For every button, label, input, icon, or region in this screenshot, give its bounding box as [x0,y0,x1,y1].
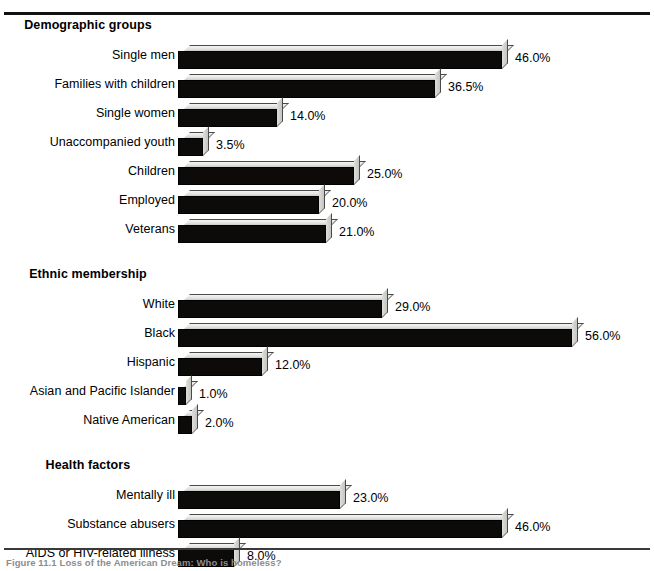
bar-top-face [184,485,352,491]
bar-3d [178,514,502,538]
bar-front-face [178,491,340,509]
bar-row: Children25.0% [0,158,654,187]
bar-3d [178,74,435,98]
bar-value-label: 2.0% [205,416,234,430]
bar-3d [178,410,192,434]
figure-caption: Figure 11.1 Loss of the American Dream: … [6,557,646,568]
bar-top-face [184,161,366,167]
bar-3d [178,45,502,69]
bar-row: Employed20.0% [0,187,654,216]
bar-category-label: Substance abusers [67,517,175,531]
bar-front-face [178,196,319,214]
bar-value-label: 20.0% [332,196,367,210]
bar-top-face [184,190,331,196]
bar-value-label: 12.0% [275,358,310,372]
bar-front-face [178,358,262,376]
bar-row: Single women14.0% [0,100,654,129]
bar-side-face [262,346,268,376]
bar-top-face [184,219,338,225]
bar-top-face [184,45,514,51]
bar-row: Black56.0% [0,320,654,349]
bar-category-label: Children [128,164,175,178]
bar-3d [178,294,382,318]
bar-value-label: 36.5% [448,80,483,94]
bar-value-label: 23.0% [353,491,388,505]
figure-top-rule [4,12,650,15]
bar-category-label: Families with children [54,77,175,91]
bar-row: Substance abusers46.0% [0,511,654,540]
bar-side-face [319,184,325,214]
bar-group-title: Ethnic membership [0,267,176,281]
bar-front-face [178,225,326,243]
bar-3d [178,190,319,214]
bar-row: Single men46.0% [0,42,654,71]
bar-category-label: Unaccompanied youth [50,135,175,149]
bar-category-label: Asian and Pacific Islander [30,384,175,398]
bar-front-face [178,109,277,127]
bar-side-face [340,479,346,509]
bar-value-label: 46.0% [515,520,550,534]
bar-category-label: Mentally ill [116,488,175,502]
bar-value-label: 25.0% [367,167,402,181]
bar-row: Mentally ill23.0% [0,482,654,511]
bar-side-face [382,288,388,318]
bar-top-face [184,74,447,80]
bar-value-label: 29.0% [395,300,430,314]
bar-group: Ethnic membershipWhite29.0%Black56.0%His… [0,267,654,436]
bar-category-label: Native American [83,413,175,427]
bar-top-face [184,352,274,358]
bar-side-face [502,39,508,69]
bar-side-face [277,97,283,127]
bar-row: Veterans21.0% [0,216,654,245]
bar-value-label: 56.0% [585,329,620,343]
bar-3d [178,103,277,127]
bar-category-label: White [143,297,175,311]
figure-container: Demographic groupsSingle men46.0%Familie… [0,0,654,571]
bar-front-face [178,387,186,405]
bar-top-face [184,323,584,329]
bar-3d [178,161,354,185]
bar-row: Hispanic12.0% [0,349,654,378]
bar-top-face [184,514,514,520]
figure-bottom-rule [4,548,650,550]
bar-category-label: Employed [119,193,175,207]
bar-category-label: Single women [96,106,175,120]
bar-3d [178,381,186,405]
bar-side-face [435,68,441,98]
bar-3d [178,352,262,376]
bar-3d [178,323,572,347]
bar-3d [178,219,326,243]
bar-row: Unaccompanied youth3.5% [0,129,654,158]
bar-side-face [354,155,360,185]
bar-category-label: Black [144,326,175,340]
bar-front-face [178,167,354,185]
bar-category-label: Single men [112,48,175,62]
bar-value-label: 21.0% [339,225,374,239]
bar-row: Families with children36.5% [0,71,654,100]
bar-group-title: Demographic groups [0,18,176,32]
bar-row: Asian and Pacific Islander1.0% [0,378,654,407]
bar-front-face [178,300,382,318]
grouped-bar-chart: Demographic groupsSingle men46.0%Familie… [0,18,654,543]
bar-front-face [178,329,572,347]
bar-top-face [184,294,394,300]
bar-3d [178,132,203,156]
bar-row: Native American2.0% [0,407,654,436]
bar-top-face [184,103,289,109]
bar-side-face [326,213,332,243]
bar-group: Demographic groupsSingle men46.0%Familie… [0,18,654,245]
bar-value-label: 3.5% [216,138,245,152]
bar-top-face [184,132,215,138]
bar-group-title: Health factors [0,458,176,472]
bar-front-face [178,51,502,69]
bar-group: Health factorsMentally ill23.0%Substance… [0,458,654,569]
bar-side-face [203,126,209,156]
bar-value-label: 1.0% [199,387,228,401]
bar-front-face [178,416,192,434]
bar-front-face [178,520,502,538]
bar-value-label: 14.0% [290,109,325,123]
bar-side-face [192,404,198,434]
bar-row: White29.0% [0,291,654,320]
bar-category-label: Hispanic [127,355,175,369]
bar-front-face [178,138,203,156]
